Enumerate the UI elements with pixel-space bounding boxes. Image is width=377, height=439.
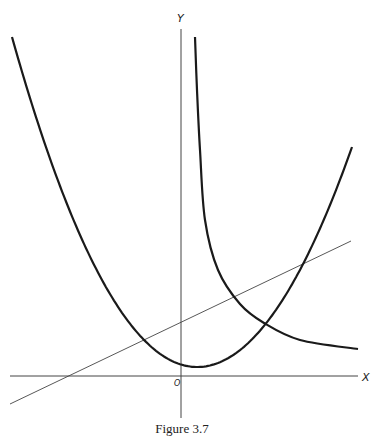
x-axis-label: X	[361, 371, 370, 384]
figure-canvas: Y X O	[0, 0, 377, 439]
hyperbola-curve	[195, 37, 358, 349]
parabola-curve	[12, 37, 352, 367]
figure-caption: Figure 3.7	[0, 421, 364, 437]
origin-label: O	[174, 379, 180, 388]
y-axis-label: Y	[177, 12, 185, 25]
